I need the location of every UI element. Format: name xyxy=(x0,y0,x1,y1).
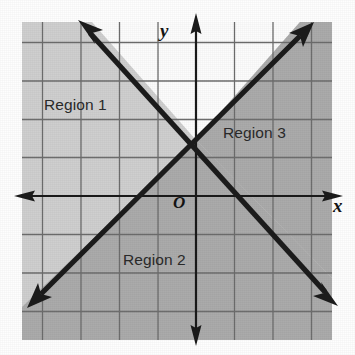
region-2-label: Region 2 xyxy=(123,251,186,269)
region-1-label: Region 1 xyxy=(44,96,107,114)
shaded-regions-group xyxy=(22,22,332,340)
graph-canvas xyxy=(0,0,355,355)
x-axis-label: x xyxy=(333,195,343,217)
coordinate-plane-figure: Region 1 Region 2 Region 3 y x O xyxy=(0,0,355,355)
region-3-label: Region 3 xyxy=(223,124,286,142)
origin-label: O xyxy=(173,193,185,213)
y-axis-label: y xyxy=(160,20,168,42)
